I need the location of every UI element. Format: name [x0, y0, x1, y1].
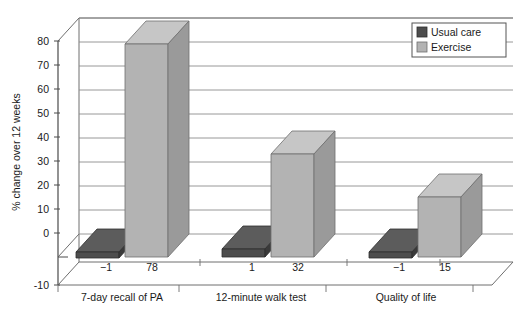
y-axis-title: % change over 12 weeks — [10, 93, 22, 210]
value-label-usual-care-1: −1 — [100, 261, 112, 273]
ytick-label-0: 0 — [43, 227, 49, 239]
bar-exercise-group-2 — [271, 131, 335, 257]
value-label-usual-care-2: 1 — [249, 261, 255, 273]
bar-chart: 80 70 60 50 40 30 20 10 0 -10 % change o… — [0, 0, 523, 309]
category-label-2: 12-minute walk test — [216, 291, 307, 303]
value-label-exercise-2: 32 — [292, 261, 304, 273]
ytick-label-30: 30 — [37, 155, 49, 167]
bar-front-face — [76, 252, 119, 258]
value-label-exercise-3: 15 — [439, 261, 451, 273]
legend-swatch-usual-care — [417, 27, 427, 37]
bar-side-face — [168, 21, 189, 257]
ytick-label-40: 40 — [37, 131, 49, 143]
bar-front-face — [125, 44, 168, 257]
category-label-1: 7-day recall of PA — [81, 291, 163, 303]
legend-label-usual-care: Usual care — [431, 26, 481, 38]
ytick-label-neg10: -10 — [34, 279, 49, 291]
value-label-exercise-1: 78 — [146, 261, 158, 273]
chart-legend: Usual care Exercise — [412, 23, 506, 57]
ytick-label-10: 10 — [37, 203, 49, 215]
bar-exercise-group-1 — [125, 21, 189, 257]
bar-front-face — [369, 252, 412, 258]
category-label-3: Quality of life — [376, 291, 437, 303]
value-label-usual-care-3: −1 — [393, 261, 405, 273]
ytick-label-20: 20 — [37, 179, 49, 191]
ytick-label-60: 60 — [37, 83, 49, 95]
ytick-label-70: 70 — [37, 59, 49, 71]
legend-swatch-exercise — [417, 42, 427, 52]
legend-label-exercise: Exercise — [431, 41, 471, 53]
bar-front-face — [418, 197, 461, 257]
ytick-label-50: 50 — [37, 107, 49, 119]
chart-canvas: 80 70 60 50 40 30 20 10 0 -10 % change o… — [0, 0, 523, 309]
ytick-label-80: 80 — [37, 35, 49, 47]
bar-exercise-group-3 — [418, 174, 482, 257]
category-labels: 7-day recall of PA 12-minute walk test Q… — [81, 291, 437, 303]
bar-front-face — [222, 249, 265, 257]
bar-front-face — [271, 154, 314, 257]
